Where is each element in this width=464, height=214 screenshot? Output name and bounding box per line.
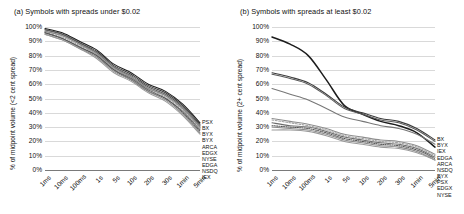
panel-b-plot-area: [272, 27, 435, 170]
y-axis-tick-label: 70%: [244, 66, 269, 73]
x-axis-tick-label: 1s: [316, 174, 334, 192]
x-axis-tick-label: 30s: [155, 174, 173, 192]
x-axis-tick-label: 1ms: [34, 174, 52, 192]
x-axis-tick-label: 1min: [172, 174, 190, 192]
y-axis-tick-label: 10%: [17, 152, 42, 159]
y-axis-tick-label: 0%: [17, 166, 42, 173]
y-axis-tick-label: 20%: [17, 137, 42, 144]
panel-a-plot-area: [45, 27, 200, 170]
y-axis-tick-label: 20%: [244, 137, 269, 144]
y-axis-tick-label: 90%: [17, 37, 42, 44]
series-line: [45, 31, 200, 127]
x-axis-tick-label: 1ms: [261, 174, 279, 192]
y-axis-tick-label: 30%: [244, 123, 269, 130]
panel-a-title: (a) Symbols with spreads under $0.02: [14, 7, 140, 16]
x-axis-line: [45, 170, 200, 171]
x-axis-tick-label: 1s: [86, 174, 104, 192]
x-axis-tick-label: 20s: [138, 174, 156, 192]
series-line: [45, 31, 200, 127]
x-axis-tick-label: 5s: [103, 174, 121, 192]
x-axis-line: [272, 170, 435, 171]
x-axis-tick-label: 10s: [120, 174, 138, 192]
y-axis-tick-label: 40%: [17, 109, 42, 116]
y-axis-tick-label: 60%: [17, 80, 42, 87]
series-lines: [45, 27, 200, 170]
y-axis-tick-label: 50%: [244, 95, 269, 102]
x-axis-tick-label: 10ms: [51, 174, 69, 192]
x-axis-tick-label: 5min: [189, 174, 207, 192]
x-axis-tick-label: 100ms: [297, 174, 315, 192]
panel-b-legend: BXBYXIEXEDGAARCANSDQBYXPSXEDGXNYSE: [437, 137, 453, 199]
x-axis-tick-label: 30s: [388, 174, 406, 192]
panel-b-y-axis-label: % of midpoint volume (2+ cent spread): [236, 59, 243, 172]
series-lines: [272, 27, 435, 170]
y-axis-tick-label: 50%: [17, 95, 42, 102]
series-line: [45, 33, 200, 129]
series-line: [45, 33, 200, 130]
series-line: [45, 33, 200, 132]
figure-container: (a) Symbols with spreads under $0.02 % o…: [0, 0, 464, 214]
y-axis-tick-label: 60%: [244, 80, 269, 87]
panel-a-legend: PSXBXBYXBYXARCAEDGXNYSEEDGANSDQIEX: [202, 120, 218, 182]
y-axis-tick-label: 30%: [17, 123, 42, 130]
panel-b: (b) Symbols with spreads at least $0.02 …: [232, 0, 464, 214]
x-axis-tick-label: 5s: [334, 174, 352, 192]
y-axis-tick-label: 80%: [17, 52, 42, 59]
y-axis-tick-label: 90%: [244, 37, 269, 44]
x-axis-tick-label: 10ms: [279, 174, 297, 192]
y-axis-tick-label: 10%: [244, 152, 269, 159]
series-line: [45, 34, 200, 134]
y-axis-tick-label: 0%: [244, 166, 269, 173]
series-line: [45, 34, 200, 133]
y-axis-tick-label: 40%: [244, 109, 269, 116]
y-axis-tick-label: 100%: [17, 23, 42, 30]
y-axis-tick-label: 80%: [244, 52, 269, 59]
x-axis-tick-label: 1min: [406, 174, 424, 192]
legend-item: NYSE: [437, 193, 453, 199]
x-axis-tick-label: 100ms: [69, 174, 87, 192]
x-axis-tick-label: 10s: [352, 174, 370, 192]
panel-a: (a) Symbols with spreads under $0.02 % o…: [0, 0, 232, 214]
panel-a-y-axis-label: % of midpoint volume (<2 cent spread): [9, 57, 16, 170]
y-axis-tick-label: 70%: [17, 66, 42, 73]
panel-b-title: (b) Symbols with spreads at least $0.02: [240, 7, 371, 16]
y-axis-tick-label: 100%: [244, 23, 269, 30]
x-axis-tick-label: 20s: [370, 174, 388, 192]
